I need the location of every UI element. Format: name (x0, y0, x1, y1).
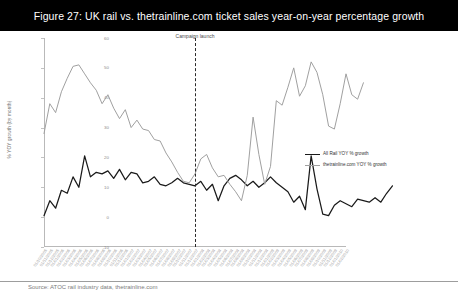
legend-item-label: All Rail YOY % growth (323, 151, 369, 157)
page-title: Figure 27: UK rail vs. thetrainline.com … (8, 10, 451, 22)
legend-swatch-icon (305, 154, 320, 155)
figure-screenshot: Figure 27: UK rail vs. thetrainline.com … (0, 0, 458, 291)
legend-item[interactable]: All Rail YOY % growth (305, 151, 387, 157)
legend-item-label: thetrainline.com YOY % growth (323, 162, 387, 168)
figure-source-note: Source: ATOC rail industry data, thetrai… (28, 283, 328, 291)
legend-swatch-icon (305, 165, 320, 166)
campaign-launch-label: Campaign launch (176, 33, 215, 39)
y-axis-label: % YOY growth (by month) (7, 45, 12, 215)
chart-figure: % YOY growth (by month) -100102030405060… (0, 31, 458, 291)
campaign-launch-line (195, 38, 196, 247)
chart-legend: All Rail YOY % growththetrainline.com YO… (305, 151, 387, 173)
footer-divider (0, 281, 458, 282)
legend-item[interactable]: thetrainline.com YOY % growth (305, 162, 387, 168)
figure-title-banner: Figure 27: UK rail vs. thetrainline.com … (0, 0, 458, 31)
